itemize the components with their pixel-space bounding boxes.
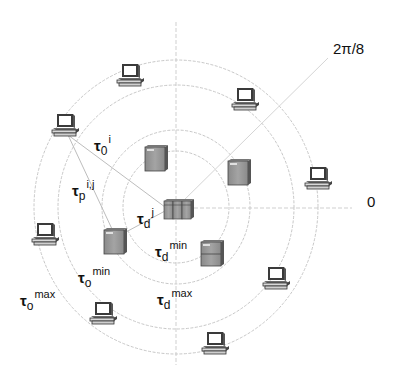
computer-icon [202,332,229,354]
computer-icon [232,88,259,110]
server-icon [104,228,127,254]
label-tau-d-min: τdmin [155,244,187,259]
label-tau-o-i: τ0i [94,138,111,153]
computer-icon [263,267,290,289]
server-cluster-icon [164,199,194,219]
computer-icon [52,114,79,136]
computer-icon [32,223,59,245]
computer-icon [90,302,117,324]
computer-icon [117,64,144,86]
server-icon [145,145,168,171]
label-tau-o-max: τomax [20,293,55,308]
label-tau-d-j: τdj [137,211,154,226]
zero-axis-label: 0 [367,193,375,210]
computer-icon [305,167,332,189]
server-icon [201,240,224,266]
diagonal-axis-label: 2π/8 [333,40,364,57]
label-tau-p-ij: τpi,j [72,183,94,198]
axes [176,22,352,365]
label-tau-o-min: τomin [78,270,110,285]
label-tau-d-max: τdmax [157,292,192,307]
server-icon [228,159,251,185]
